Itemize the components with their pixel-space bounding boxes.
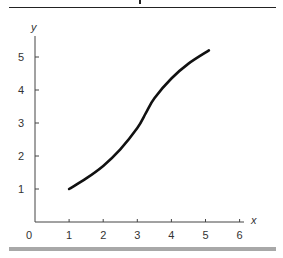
y-tick-label: 4: [18, 84, 24, 96]
axes: y x: [30, 21, 257, 226]
data-curve: [69, 50, 209, 189]
x-tick-label: 2: [100, 229, 106, 241]
y-ticks: 12345: [18, 51, 39, 195]
y-tick-label: 5: [18, 51, 24, 63]
x-tick-label: 5: [202, 229, 208, 241]
y-tick-label: 2: [18, 150, 24, 162]
x-tick-label: 0: [26, 229, 32, 241]
x-tick-label: 4: [168, 229, 174, 241]
y-tick-label: 3: [18, 117, 24, 129]
x-axis-label: x: [250, 214, 257, 226]
x-tick-label: 1: [66, 229, 72, 241]
bottom-rule: [9, 247, 276, 251]
line-chart: y x 0123456 12345: [0, 0, 283, 258]
x-tick-label: 6: [237, 229, 243, 241]
x-tick-label: 3: [134, 229, 140, 241]
y-axis-label: y: [30, 21, 38, 33]
y-tick-label: 1: [18, 183, 24, 195]
